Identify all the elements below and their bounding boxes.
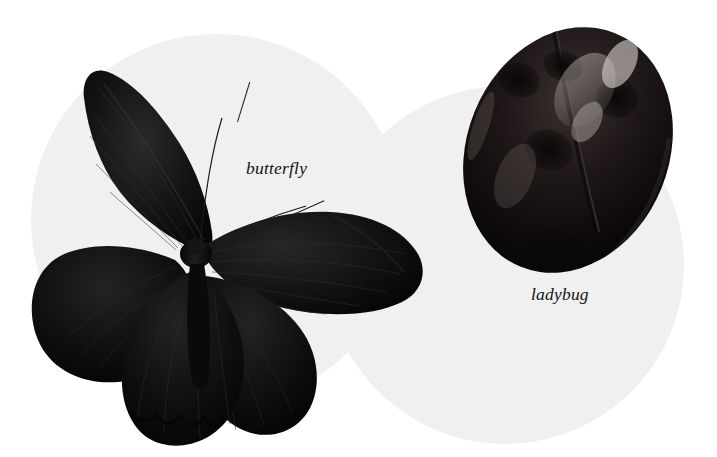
image-canvas: butterfly ladybug (0, 0, 717, 457)
ladybug-photo (437, 18, 699, 283)
label-butterfly: butterfly (246, 158, 307, 179)
butterfly-left-forewing (84, 70, 213, 252)
label-ladybug: ladybug (531, 284, 589, 305)
butterfly-photo (0, 40, 440, 450)
ladybug-elytra (437, 18, 699, 283)
